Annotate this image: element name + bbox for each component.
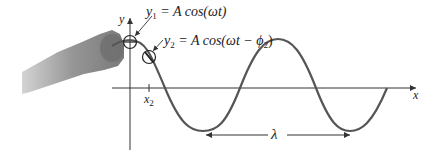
y-axis-label: y	[119, 13, 124, 25]
equation-y2: y2 = A cos(ωt − ϕ2)	[164, 34, 273, 50]
x-axis-label: x	[413, 89, 418, 101]
eq2-lhs-sub: 2	[170, 40, 175, 50]
x2-tick-label: x2	[144, 93, 154, 108]
x2-label-sub: 2	[149, 98, 154, 108]
eq2-rhs-end: )	[268, 33, 273, 48]
x-axis-label-text: x	[413, 88, 418, 102]
eq2-rhs: = A cos(ωt − ϕ	[178, 33, 263, 48]
wavelength-label: λ	[271, 127, 278, 142]
eq1-lhs-sub: 1	[152, 11, 157, 21]
y-axis-label-text: y	[119, 12, 124, 26]
hand-illustration	[22, 30, 124, 94]
lambda-symbol: λ	[271, 126, 278, 142]
eq1-rhs: = A cos(ωt)	[160, 4, 226, 19]
wave-diagram: y x y1 = A cos(ωt) y2 = A cos(ωt − ϕ2) x…	[0, 0, 426, 152]
equation-y1: y1 = A cos(ωt)	[146, 5, 226, 21]
leader-y2	[153, 40, 163, 51]
